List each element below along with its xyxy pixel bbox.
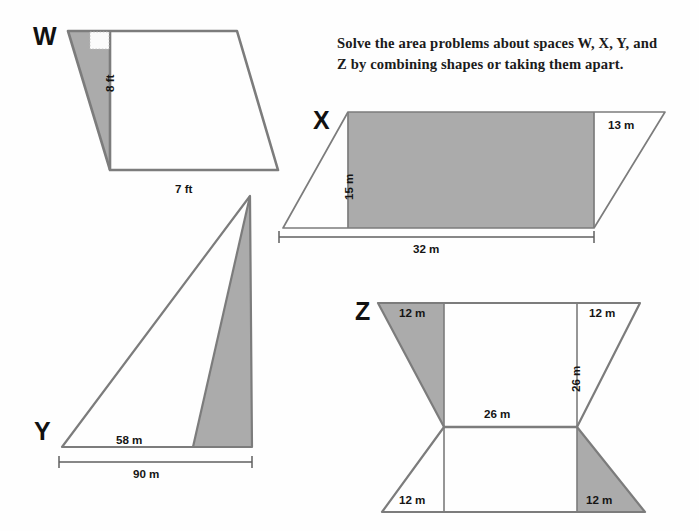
shape-z-bottom-left-label: 12 m [399, 494, 425, 506]
shape-w-height-label: 8 ft [104, 75, 116, 92]
shape-label-x: X [313, 108, 330, 133]
shape-z-top-right-label: 12 m [589, 307, 615, 319]
shape-z-right-vertical-label: 26 m [570, 366, 582, 392]
shape-w-base-label: 7 ft [175, 183, 192, 195]
shape-label-y: Y [34, 419, 51, 444]
shape-y-group [59, 196, 252, 468]
shape-x-shaded-rectangle [348, 112, 594, 228]
shape-x-height-label: 15 m [343, 174, 355, 200]
shape-x-slant-label: 13 m [608, 119, 634, 131]
shape-label-z: Z [355, 299, 370, 324]
shape-z-middle-horizontal-label: 26 m [484, 408, 510, 420]
shape-x-base-label: 32 m [413, 243, 439, 255]
shape-z-top-left-label: 12 m [399, 307, 425, 319]
shape-y-base-label: 90 m [133, 468, 159, 480]
instruction-line-1: Solve the area problems about spaces W, … [337, 33, 685, 54]
shape-z-bottom-right-label: 12 m [586, 494, 612, 506]
shape-label-w: W [33, 24, 57, 49]
right-angle-marker-icon [90, 32, 109, 49]
shape-w-group [68, 31, 278, 170]
worksheet-page: Solve the area problems about spaces W, … [0, 0, 699, 531]
instruction-line-2: Z by combining shapes or taking them apa… [337, 54, 685, 75]
instruction-text: Solve the area problems about spaces W, … [337, 33, 685, 74]
shape-z-group [378, 303, 645, 512]
shape-y-inner-base-label: 58 m [116, 434, 142, 446]
shape-x-group [279, 112, 665, 243]
